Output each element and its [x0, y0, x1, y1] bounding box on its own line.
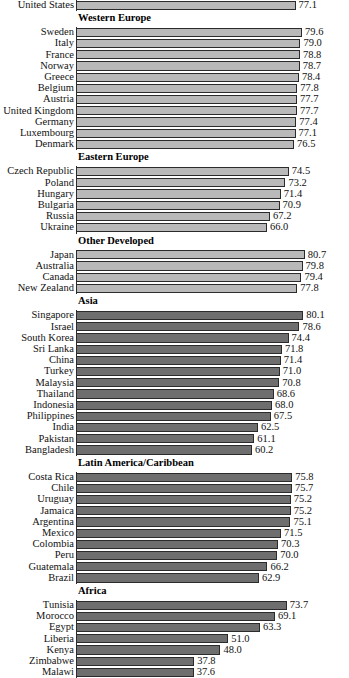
- bar-category-label: Sri Lanka: [0, 343, 74, 355]
- bar-value-label: 69.1: [278, 610, 296, 622]
- bar: [76, 356, 281, 365]
- bar: [76, 540, 278, 549]
- bar-value-label: 75.7: [295, 482, 313, 494]
- bar-category-label: South Korea: [0, 332, 74, 344]
- bar-value-label: 77.1: [299, 0, 317, 11]
- section-header-label: Eastern Europe: [78, 151, 149, 163]
- bar-category-label: Israel: [0, 321, 74, 333]
- bar: [76, 333, 289, 342]
- section-header-label: Western Europe: [78, 12, 151, 24]
- bar-category-label: Belgium: [0, 82, 74, 94]
- bar-value-label: 79.4: [304, 271, 322, 283]
- bar-value-label: 77.1: [299, 127, 317, 139]
- bar-category-label: Australia: [0, 260, 74, 272]
- category-axis-line: [76, 27, 77, 150]
- bar-category-label: India: [0, 421, 74, 433]
- bar-value-label: 61.1: [257, 433, 275, 445]
- bar-category-label: Sweden: [0, 26, 74, 38]
- bar-category-label: Liberia: [0, 633, 74, 645]
- bar-value-label: 71.5: [284, 527, 302, 539]
- bar: [76, 201, 280, 210]
- bar-value-label: 74.5: [292, 165, 310, 177]
- bar-value-label: 75.1: [293, 516, 311, 528]
- bar: [76, 573, 259, 582]
- bar: [76, 178, 285, 187]
- bar: [76, 645, 220, 654]
- bar-value-label: 70.8: [282, 377, 300, 389]
- bar: [76, 423, 258, 432]
- bar-value-label: 78.6: [302, 321, 320, 333]
- bar-category-label: Zimbabwe: [0, 655, 74, 667]
- bar-category-label: Poland: [0, 177, 74, 189]
- bar-category-label: Costa Rica: [0, 471, 74, 483]
- bar-category-label: Norway: [0, 60, 74, 72]
- bar: [76, 189, 281, 198]
- bar: [76, 367, 280, 376]
- bar: [76, 73, 299, 82]
- bar: [76, 473, 292, 482]
- bar: [76, 322, 299, 331]
- bar-category-label: Indonesia: [0, 399, 74, 411]
- bar-row: Malawi37.6: [0, 667, 349, 678]
- bar-category-label: Mexico: [0, 527, 74, 539]
- bar-value-label: 60.2: [255, 444, 273, 456]
- bar-value-label: 74.4: [292, 332, 310, 344]
- bar: [76, 273, 301, 282]
- bar-category-label: Germany: [0, 116, 74, 128]
- bar-category-label: Philippines: [0, 410, 74, 422]
- bar: [76, 167, 289, 176]
- bar: [76, 28, 302, 37]
- bar: [76, 345, 282, 354]
- category-axis-line: [76, 472, 77, 584]
- bar-value-label: 71.4: [284, 188, 302, 200]
- bar: [76, 84, 297, 93]
- bar-category-label: France: [0, 49, 74, 61]
- bar-value-label: 73.7: [290, 599, 308, 611]
- bar-category-label: China: [0, 354, 74, 366]
- bar-row: Ukraine66.0: [0, 222, 349, 233]
- bar-row: United States77.1: [0, 0, 349, 11]
- section-header-label: Latin America/Caribbean: [78, 457, 194, 469]
- bar: [76, 506, 291, 515]
- bar: [76, 50, 300, 59]
- bar-category-label: Greece: [0, 71, 74, 83]
- bar-value-label: 79.0: [303, 37, 321, 49]
- bar-value-label: 76.5: [297, 138, 315, 150]
- bar: [76, 250, 305, 259]
- bar-category-label: Hungary: [0, 188, 74, 200]
- category-axis-line: [76, 250, 77, 295]
- bar-category-label: Bulgaria: [0, 199, 74, 211]
- bar-value-label: 62.5: [261, 421, 279, 433]
- bar-value-label: 70.9: [283, 199, 301, 211]
- bar-category-label: United Kingdom: [0, 105, 74, 117]
- bar-category-label: Colombia: [0, 538, 74, 550]
- bar-row: Brazil62.9: [0, 573, 349, 584]
- bar-value-label: 77.7: [300, 105, 318, 117]
- bar-category-label: Malaysia: [0, 377, 74, 389]
- bar-value-label: 79.6: [305, 26, 323, 38]
- bar: [76, 140, 294, 149]
- bar-value-label: 68.6: [277, 388, 295, 400]
- bar-value-label: 37.6: [197, 666, 215, 678]
- bar: [76, 311, 303, 320]
- bar-category-label: Thailand: [0, 388, 74, 400]
- bar: [76, 61, 300, 70]
- bar-category-label: Japan: [0, 249, 74, 261]
- section-header-label: Africa: [78, 585, 107, 597]
- bar-value-label: 73.2: [288, 177, 306, 189]
- bar-value-label: 67.2: [273, 210, 291, 222]
- bar-value-label: 67.5: [274, 410, 292, 422]
- bar-category-label: Brazil: [0, 572, 74, 584]
- bar: [76, 529, 281, 538]
- bar-value-label: 71.4: [284, 354, 302, 366]
- bar-value-label: 75.2: [294, 505, 312, 517]
- bar: [76, 106, 297, 115]
- bar-value-label: 70.3: [281, 538, 299, 550]
- bar-value-label: 63.3: [263, 621, 281, 633]
- bar: [76, 634, 228, 643]
- bar: [76, 517, 290, 526]
- bar: [76, 668, 194, 677]
- bar-row: New Zealand77.8: [0, 283, 349, 294]
- bar-category-label: New Zealand: [0, 282, 74, 294]
